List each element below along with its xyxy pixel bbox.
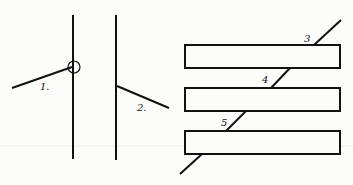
- label-4: 4: [261, 74, 268, 85]
- bar-top: [185, 45, 340, 68]
- diagonal-segment-3: [314, 20, 341, 45]
- bar-bottom: [185, 131, 340, 154]
- illusion-diagram: 1. 2. 3 4 5: [0, 0, 353, 185]
- left-panel: 1. 2.: [12, 15, 169, 160]
- label-3: 3: [304, 33, 310, 44]
- diagonal-segment-4: [271, 68, 290, 88]
- diagram-svg: 1. 2. 3 4 5: [0, 0, 353, 185]
- diagonal-segment-5: [226, 111, 246, 131]
- label-2: 2.: [136, 102, 147, 113]
- bar-middle: [185, 88, 340, 111]
- right-panel: 3 4 5: [180, 20, 341, 174]
- diagonal-segment-bottom: [180, 154, 202, 174]
- label-1: 1.: [40, 81, 50, 92]
- label-5: 5: [221, 117, 227, 128]
